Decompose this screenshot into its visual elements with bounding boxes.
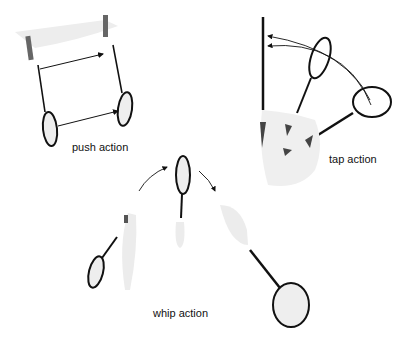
racket-head-right: [353, 87, 391, 117]
arrow-down: [199, 171, 215, 191]
racket-shaft-left: [38, 65, 45, 112]
racket-head-left: [85, 255, 106, 289]
racket-shaft-right: [250, 250, 280, 288]
racket-actions-diagram: push action tap action whip action: [0, 0, 408, 343]
racket-shaft-right: [113, 45, 122, 93]
arrow-top: [40, 54, 103, 69]
arrow-bottom: [58, 111, 118, 126]
racket-shaft-mid: [181, 194, 182, 218]
racket-shaft-left: [102, 237, 117, 258]
hand-shape-right: [220, 205, 248, 245]
grip-right: [103, 15, 108, 37]
racket-head-right: [273, 283, 309, 327]
arrow-up: [139, 167, 167, 191]
hand-shape-left: [122, 213, 136, 290]
hand-shape-mid: [176, 222, 185, 248]
whip-action-label: whip action: [153, 307, 208, 319]
tap-action-label: tap action: [329, 153, 377, 165]
push-action-label: push action: [72, 141, 128, 153]
hand-shape: [261, 110, 320, 186]
grip-left: [124, 215, 128, 223]
diagram-canvas: [0, 0, 408, 343]
racket-head-mid: [176, 156, 190, 194]
racket-shaft-mid: [297, 78, 311, 113]
racket-head-left: [41, 111, 58, 146]
racket-shaft-right: [318, 113, 353, 135]
racket-head-right: [116, 91, 135, 127]
push-action-figure: [15, 15, 134, 147]
